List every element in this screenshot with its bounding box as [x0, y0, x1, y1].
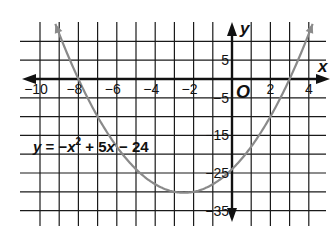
y-tick-label: −25: [205, 165, 229, 181]
y-axis-up-arrow-icon: [227, 22, 237, 36]
x-tick-label: 2: [267, 81, 275, 97]
x-tick-label: −10: [24, 81, 48, 97]
curve-arrow-icon: [55, 24, 62, 34]
equation-label: y = −x2 + 5x − 24: [32, 136, 149, 155]
y-tick-label: −35: [205, 203, 229, 219]
y-tick-label: 5: [221, 52, 229, 68]
parabola-graph: −10−8−6−4−2245−5−15−25−35 x y O y = −x2 …: [0, 0, 335, 234]
parabola-curve: [55, 24, 312, 193]
y-tick-label: −5: [213, 90, 229, 106]
x-tick-label: −8: [66, 81, 82, 97]
y-axis-label: y: [239, 19, 251, 38]
curve-arrow-icon: [306, 24, 313, 34]
y-tick-label: −15: [205, 127, 229, 143]
origin-label: O: [236, 82, 250, 102]
x-axis-label: x: [317, 57, 329, 76]
curve-arrowheads: [55, 24, 313, 34]
x-tick-label: −4: [143, 81, 159, 97]
x-tick-label: 4: [305, 81, 313, 97]
x-tick-label: −2: [182, 81, 198, 97]
x-tick-label: −6: [105, 81, 121, 97]
